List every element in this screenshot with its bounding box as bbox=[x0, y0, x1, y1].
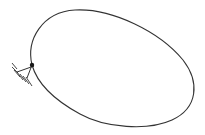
hatch-line bbox=[17, 72, 23, 80]
pin-joint bbox=[30, 63, 34, 67]
elastic-loop bbox=[31, 10, 194, 127]
hatch-line bbox=[20, 74, 26, 82]
loop-diagram bbox=[0, 0, 205, 135]
